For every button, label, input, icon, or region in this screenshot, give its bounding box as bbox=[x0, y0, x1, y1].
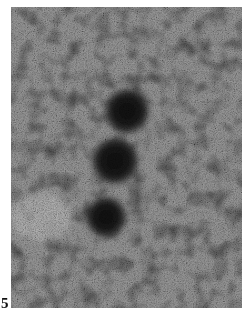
micrograph-image bbox=[11, 7, 242, 308]
micrograph-render bbox=[11, 7, 242, 308]
panel-label: 5 bbox=[1, 296, 9, 311]
